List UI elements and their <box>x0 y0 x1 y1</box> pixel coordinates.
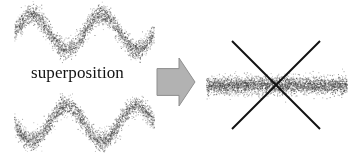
vector-overlay <box>0 0 358 160</box>
superposition-figure: superposition <box>0 0 358 160</box>
block-arrow-right-icon <box>157 58 195 106</box>
